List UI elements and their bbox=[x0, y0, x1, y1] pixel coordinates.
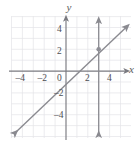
y-axis-label: y bbox=[67, 2, 72, 13]
y-tick-label-2: 2 bbox=[57, 47, 62, 57]
x-axis-label: x bbox=[129, 64, 134, 75]
x-tick-label-4: 4 bbox=[107, 74, 112, 84]
y-tick-label-4: 4 bbox=[57, 25, 62, 35]
intersection-point-marker bbox=[96, 47, 101, 52]
y-tick-label-neg2: –2 bbox=[54, 89, 64, 99]
x-tick-label-2: 2 bbox=[85, 74, 90, 84]
coordinate-plane-figure: y x 0 –4 –2 2 4 4 2 –2 –4 bbox=[0, 0, 139, 144]
x-tick-label-neg4: –4 bbox=[16, 74, 26, 84]
x-tick-label-neg2: –2 bbox=[38, 74, 48, 84]
y-tick-label-neg4: –4 bbox=[54, 111, 64, 121]
graph-canvas bbox=[0, 0, 139, 144]
origin-tick-label: 0 bbox=[57, 74, 62, 84]
